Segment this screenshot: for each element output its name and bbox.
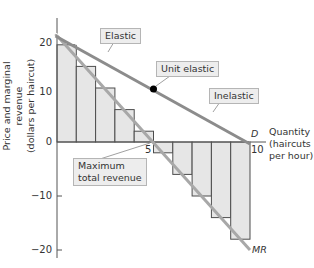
y-axis-title: Price and marginal revenue (dollars per … <box>1 41 37 171</box>
max-revenue-line2: total revenue <box>78 172 142 184</box>
x-axis-title: Quantity (haircuts per hour) <box>269 126 313 162</box>
mr-bar <box>231 142 250 239</box>
mr-bar <box>211 142 230 218</box>
unit-elastic-leader <box>156 76 170 86</box>
unit-elastic-point <box>150 86 157 93</box>
elastic-label: Elastic <box>100 28 141 44</box>
x-tick-5: 5 <box>145 144 151 156</box>
inelastic-label: Inelastic <box>209 88 259 104</box>
mr-bar <box>57 45 76 142</box>
demand-label: D <box>251 128 258 140</box>
max-revenue-line1: Maximum <box>78 160 142 172</box>
y-tick-neg20: −20 <box>26 244 52 255</box>
y-ticks <box>57 196 62 250</box>
y-tick-0: 0 <box>26 136 52 147</box>
max-revenue-label: Maximum total revenue <box>73 158 147 186</box>
mr-label: MR <box>252 244 267 256</box>
mr-bar <box>115 110 134 142</box>
x-axis-title-line1: Quantity <box>269 126 313 138</box>
x-axis-title-line3: per hour) <box>269 150 313 162</box>
y-tick-10: 10 <box>26 86 52 97</box>
x-tick-10: 10 <box>251 144 264 156</box>
x-axis-title-line2: (haircuts <box>269 138 313 150</box>
y-axis-title-line2: (dollars per haircut) <box>25 41 37 171</box>
y-tick-20: 20 <box>26 37 52 48</box>
mr-bar <box>76 66 95 142</box>
max-revenue-leader <box>100 143 150 159</box>
y-tick-neg10: −10 <box>26 190 52 201</box>
y-axis-title-line1: Price and marginal revenue <box>1 41 25 171</box>
unit-elastic-label: Unit elastic <box>156 61 219 77</box>
